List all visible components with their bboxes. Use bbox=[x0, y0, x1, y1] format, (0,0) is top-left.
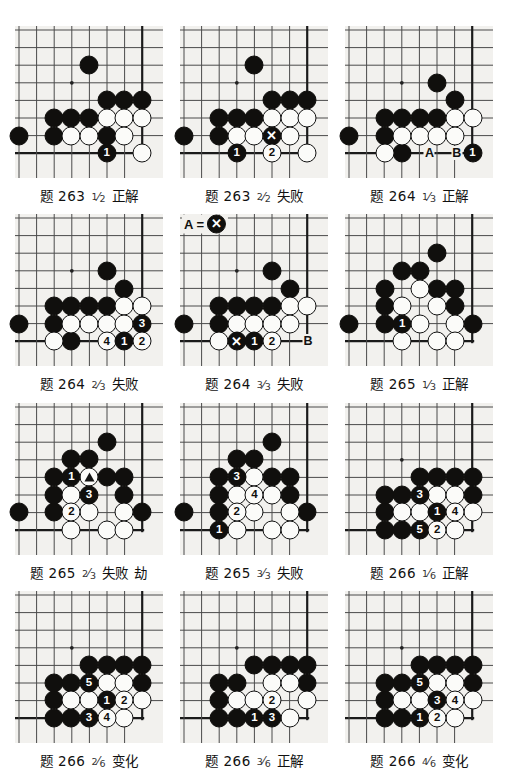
stone-white[interactable] bbox=[97, 520, 116, 539]
stone-black[interactable] bbox=[375, 485, 394, 504]
stone-black[interactable] bbox=[210, 109, 229, 128]
stone-white[interactable] bbox=[210, 332, 229, 351]
go-board[interactable]: 213 bbox=[180, 591, 328, 743]
stone-black-move-1[interactable]: 1 bbox=[410, 708, 429, 727]
stone-black[interactable] bbox=[245, 56, 264, 75]
stone-black[interactable] bbox=[463, 485, 482, 504]
stone-white[interactable] bbox=[262, 485, 281, 504]
stone-black[interactable] bbox=[44, 126, 63, 145]
stone-black[interactable] bbox=[428, 109, 447, 128]
stone-black[interactable] bbox=[227, 109, 246, 128]
stone-white[interactable] bbox=[115, 673, 134, 692]
stone-white[interactable] bbox=[227, 520, 246, 539]
stone-black[interactable] bbox=[97, 297, 116, 316]
stone-white[interactable] bbox=[227, 485, 246, 504]
stone-black[interactable] bbox=[428, 656, 447, 675]
stone-white-move-4[interactable]: 4 bbox=[97, 332, 116, 351]
stone-black[interactable] bbox=[445, 279, 464, 298]
stone-black-move-1[interactable]: 1 bbox=[463, 144, 482, 163]
stone-black-move-1[interactable]: 1 bbox=[428, 503, 447, 522]
stone-black[interactable] bbox=[9, 126, 28, 145]
stone-black[interactable] bbox=[132, 673, 151, 692]
stone-white[interactable] bbox=[280, 520, 299, 539]
stone-black[interactable] bbox=[393, 485, 412, 504]
go-board[interactable]: ✕12 bbox=[180, 26, 328, 178]
stone-black[interactable] bbox=[445, 656, 464, 675]
stone-white[interactable] bbox=[463, 503, 482, 522]
go-board[interactable]: 1AB bbox=[345, 26, 493, 178]
stone-white[interactable] bbox=[280, 708, 299, 727]
stone-black[interactable] bbox=[298, 91, 317, 110]
stone-white-move-2[interactable]: 2 bbox=[428, 520, 447, 539]
stone-white[interactable] bbox=[445, 520, 464, 539]
stone-black[interactable] bbox=[227, 450, 246, 469]
stone-black[interactable] bbox=[80, 297, 99, 316]
stone-black[interactable] bbox=[115, 485, 134, 504]
stone-black[interactable] bbox=[245, 656, 264, 675]
go-board[interactable]: 132 bbox=[15, 403, 163, 555]
stone-black[interactable] bbox=[62, 708, 81, 727]
stone-black[interactable] bbox=[410, 656, 429, 675]
stone-white[interactable] bbox=[428, 126, 447, 145]
stone-black[interactable] bbox=[262, 467, 281, 486]
stone-white[interactable] bbox=[428, 673, 447, 692]
stone-black[interactable] bbox=[44, 467, 63, 486]
stone-white[interactable] bbox=[410, 279, 429, 298]
stone-black[interactable] bbox=[210, 691, 229, 710]
stone-black[interactable] bbox=[62, 109, 81, 128]
stone-white[interactable] bbox=[62, 126, 81, 145]
stone-white[interactable] bbox=[463, 109, 482, 128]
stone-white-move-2[interactable]: 2 bbox=[262, 144, 281, 163]
stone-black[interactable] bbox=[463, 673, 482, 692]
stone-white[interactable] bbox=[280, 673, 299, 692]
stone-black-move-3[interactable]: 3 bbox=[80, 708, 99, 727]
stone-black-marked-x[interactable]: ✕ bbox=[262, 126, 281, 145]
stone-black[interactable] bbox=[227, 673, 246, 692]
stone-white[interactable] bbox=[280, 297, 299, 316]
stone-black[interactable] bbox=[44, 109, 63, 128]
stone-black[interactable] bbox=[375, 314, 394, 333]
stone-black[interactable] bbox=[115, 656, 134, 675]
stone-black[interactable] bbox=[62, 673, 81, 692]
stone-white[interactable] bbox=[445, 314, 464, 333]
stone-white[interactable] bbox=[132, 109, 151, 128]
stone-black[interactable] bbox=[44, 673, 63, 692]
stone-black[interactable] bbox=[375, 691, 394, 710]
stone-black[interactable] bbox=[80, 450, 99, 469]
stone-black[interactable] bbox=[393, 109, 412, 128]
stone-white[interactable] bbox=[115, 297, 134, 316]
stone-white[interactable] bbox=[262, 520, 281, 539]
stone-black[interactable] bbox=[210, 485, 229, 504]
stone-black-move-5[interactable]: 5 bbox=[410, 673, 429, 692]
stone-black[interactable] bbox=[210, 673, 229, 692]
stone-black[interactable] bbox=[445, 467, 464, 486]
stone-black-move-3[interactable]: 3 bbox=[132, 314, 151, 333]
stone-white[interactable] bbox=[62, 520, 81, 539]
stone-black-move-3[interactable]: 3 bbox=[428, 691, 447, 710]
stone-black[interactable] bbox=[44, 297, 63, 316]
stone-black[interactable] bbox=[9, 314, 28, 333]
stone-black[interactable] bbox=[97, 126, 116, 145]
stone-black[interactable] bbox=[115, 279, 134, 298]
stone-white[interactable] bbox=[115, 520, 134, 539]
go-board[interactable]: 51234 bbox=[15, 591, 163, 743]
stone-white[interactable] bbox=[445, 332, 464, 351]
stone-black[interactable] bbox=[428, 467, 447, 486]
stone-black[interactable] bbox=[262, 297, 281, 316]
stone-black-move-1[interactable]: 1 bbox=[393, 314, 412, 333]
stone-white[interactable] bbox=[115, 503, 134, 522]
stone-white[interactable] bbox=[280, 109, 299, 128]
stone-white[interactable] bbox=[298, 109, 317, 128]
stone-black[interactable] bbox=[262, 91, 281, 110]
stone-white[interactable] bbox=[97, 314, 116, 333]
stone-black[interactable] bbox=[280, 279, 299, 298]
go-board[interactable]: 3412 bbox=[15, 214, 163, 366]
stone-black[interactable] bbox=[210, 467, 229, 486]
stone-black[interactable] bbox=[340, 314, 359, 333]
stone-black[interactable] bbox=[410, 109, 429, 128]
stone-white[interactable] bbox=[280, 126, 299, 145]
stone-black-move-3[interactable]: 3 bbox=[262, 708, 281, 727]
stone-black[interactable] bbox=[210, 708, 229, 727]
stone-white[interactable] bbox=[245, 314, 264, 333]
stone-black-move-1[interactable]: 1 bbox=[97, 144, 116, 163]
